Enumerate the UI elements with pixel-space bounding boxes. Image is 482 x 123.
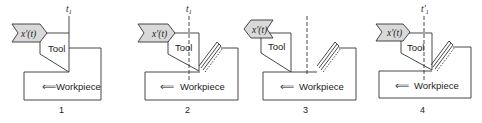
- feed-label: x'(t): [251, 25, 267, 36]
- cutting-process-diagram: t1 x'(t) Tool ⟸ Workpiece 1 t1 x'(t) Too…: [0, 0, 482, 123]
- time-label: t1: [186, 4, 192, 15]
- tool-shape: [261, 33, 291, 72]
- tool-label: Tool: [175, 42, 192, 53]
- feed-label: x'(t): [20, 29, 36, 40]
- feed-label: x'(t): [386, 28, 402, 39]
- workpiece-label: Workpiece: [414, 80, 459, 91]
- panel-number: 1: [59, 105, 64, 115]
- feed-arrow-icon: ⟸: [42, 81, 56, 92]
- chip-icon: [431, 41, 455, 71]
- feed-arrow-icon: ⟸: [280, 81, 294, 92]
- feed-arrow-icon: ⟸: [395, 80, 409, 91]
- feed-arrow-icon: ⟸: [160, 81, 174, 92]
- panel-number: 2: [185, 105, 190, 115]
- panel-number: 3: [303, 105, 308, 115]
- tool-label: Tool: [48, 43, 65, 54]
- chip-icon: [199, 42, 223, 72]
- tool-label: Tool: [268, 41, 285, 52]
- panel-number: 4: [420, 105, 425, 115]
- workpiece-label: Workpiece: [299, 81, 344, 92]
- feed-label: x'(t): [151, 29, 167, 40]
- workpiece-label: Workpiece: [180, 81, 225, 92]
- workpiece-label: Workpiece: [56, 81, 101, 92]
- tool-label: Tool: [407, 42, 424, 53]
- time-label: t1: [66, 4, 72, 15]
- time-label: t'1: [421, 4, 429, 15]
- chip-icon: [317, 42, 341, 72]
